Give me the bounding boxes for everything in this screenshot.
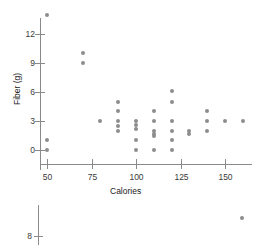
- bottom-fragment-points-layer: [0, 0, 257, 245]
- scatter-plot-figure: 0 3 6 9 12 50 75 100 125 150 Calories Fi…: [0, 0, 257, 245]
- bottom-fragment-data-point: [240, 216, 244, 220]
